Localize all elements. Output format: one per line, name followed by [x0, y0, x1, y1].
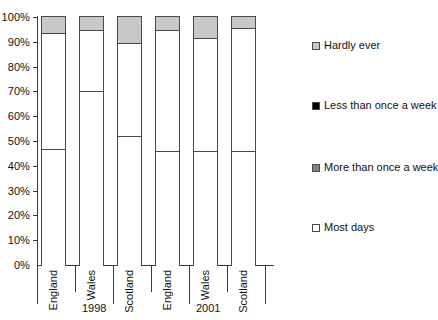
segment-hardly-ever — [80, 16, 103, 31]
x-axis-separator — [227, 266, 228, 292]
y-tick-label: 90% — [8, 36, 30, 47]
y-tick-label: 100% — [1, 12, 30, 23]
legend-swatch-icon — [312, 42, 320, 50]
segment-more-than-once-a-week — [80, 41, 103, 91]
bar-scotland-2001[interactable] — [231, 16, 256, 266]
y-axis: 100% 90% 80% 70% 60% 50% 40% 30% 20% 10%… — [0, 0, 36, 320]
legend-swatch-icon — [312, 164, 320, 172]
segment-less-than-once-a-week — [156, 31, 179, 54]
x-label-wales-2001: Wales — [200, 270, 211, 300]
segment-more-than-once-a-week — [42, 56, 65, 149]
segment-less-than-once-a-week — [80, 31, 103, 41]
y-tick-label: 50% — [8, 136, 30, 147]
x-axis-separator — [151, 266, 152, 292]
legend-label: More than once a week — [324, 162, 438, 173]
bar-wales-2001[interactable] — [193, 16, 218, 266]
x-axis-separator — [37, 266, 38, 304]
bar-england-1998[interactable] — [41, 16, 66, 266]
segment-hardly-ever — [232, 16, 255, 29]
x-axis-separator — [265, 266, 266, 304]
x-label-wales-1998: Wales — [86, 270, 97, 300]
x-label-england-2001: England — [162, 270, 173, 310]
legend-item-most-days[interactable]: Most days — [312, 222, 374, 233]
legend-label: Most days — [324, 222, 374, 233]
bar-scotland-1998[interactable] — [117, 16, 142, 266]
legend-item-more-than-once-a-week[interactable]: More than once a week — [312, 162, 438, 173]
segment-less-than-once-a-week — [118, 44, 141, 57]
x-label-scotland-1998: Scotland — [124, 270, 135, 313]
x-axis-separator — [75, 266, 76, 292]
segment-hardly-ever — [42, 16, 65, 34]
segment-more-than-once-a-week — [118, 56, 141, 136]
segment-less-than-once-a-week — [232, 29, 255, 54]
bar-england-2001[interactable] — [155, 16, 180, 266]
segment-less-than-once-a-week — [194, 39, 217, 54]
y-tick-label: 40% — [8, 160, 30, 171]
segment-most-days — [232, 151, 255, 266]
legend-label: Hardly ever — [324, 40, 380, 51]
segment-hardly-ever — [118, 16, 141, 44]
legend-label: Less than once a week — [324, 100, 437, 111]
legend: Hardly ever Less than once a week More t… — [312, 0, 402, 320]
y-tick-label: 60% — [8, 111, 30, 122]
segment-most-days — [80, 91, 103, 266]
y-tick-label: 80% — [8, 61, 30, 72]
segment-most-days — [156, 151, 179, 266]
plot-area — [37, 16, 274, 266]
y-tick-label: 10% — [8, 235, 30, 246]
segment-more-than-once-a-week — [194, 54, 217, 152]
segment-most-days — [194, 151, 217, 266]
y-tick-label: 30% — [8, 185, 30, 196]
x-label-scotland-2001: Scotland — [238, 270, 249, 313]
y-tick-label: 70% — [8, 86, 30, 97]
legend-swatch-icon — [312, 102, 320, 110]
segment-less-than-once-a-week — [42, 34, 65, 57]
segment-most-days — [42, 149, 65, 267]
x-label-england-1998: England — [48, 270, 59, 310]
x-group-label-2001: 2001 — [196, 303, 220, 314]
legend-item-hardly-ever[interactable]: Hardly ever — [312, 40, 380, 51]
segment-more-than-once-a-week — [232, 54, 255, 152]
bar-wales-1998[interactable] — [79, 16, 104, 266]
x-group-label-1998: 1998 — [82, 303, 106, 314]
segment-hardly-ever — [156, 16, 179, 31]
legend-item-less-than-once-a-week[interactable]: Less than once a week — [312, 100, 437, 111]
segment-hardly-ever — [194, 16, 217, 39]
y-tick-label: 20% — [8, 210, 30, 221]
x-axis-separator — [189, 266, 190, 304]
segment-more-than-once-a-week — [156, 54, 179, 152]
x-axis-separator — [113, 266, 114, 304]
y-tick-label: 0% — [14, 260, 30, 271]
legend-swatch-icon — [312, 224, 320, 232]
segment-most-days — [118, 136, 141, 266]
